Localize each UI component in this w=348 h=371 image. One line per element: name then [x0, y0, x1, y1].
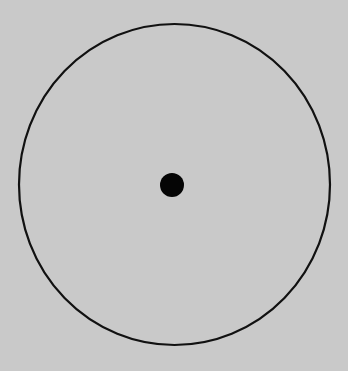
center-dot [160, 173, 184, 197]
circle-diagram [0, 0, 348, 371]
